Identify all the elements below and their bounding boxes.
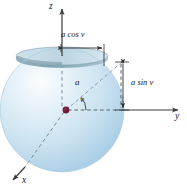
diagram-canvas <box>0 0 187 196</box>
z-axis-label: z <box>49 2 53 12</box>
origin-point <box>63 107 70 114</box>
radius-label: a <box>75 78 80 87</box>
y-axis-label: y <box>175 112 179 122</box>
a-cos-v-label: a cos v <box>61 30 85 39</box>
figure-container: z y x a cos v a sin v a v <box>0 0 187 196</box>
a-sin-v-label: a sin v <box>131 78 153 87</box>
surface-point <box>121 61 124 64</box>
figure-caption <box>0 188 187 196</box>
x-axis-label: x <box>22 176 26 186</box>
angle-label: v <box>80 95 84 104</box>
